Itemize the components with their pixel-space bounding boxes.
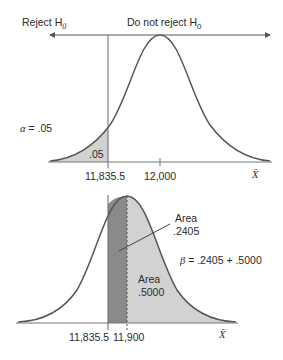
reject-label: Reject H0	[22, 16, 66, 31]
alpha-label: α = .05	[20, 122, 52, 134]
true-mean-label: 11,900	[113, 331, 144, 343]
area2-value: .5000	[138, 286, 164, 298]
do-not-reject-label: Do not reject H0	[127, 16, 202, 31]
x-bar-label-bottom: X̄	[218, 329, 226, 340]
beta-label: β = .2405 + .5000	[179, 254, 262, 266]
area1-value: .2405	[173, 225, 199, 237]
critical-value-label: 11,835.5	[85, 170, 125, 182]
mean-label: 12,000	[144, 170, 176, 182]
beta-dark-shade	[108, 196, 127, 323]
h0-curve	[50, 35, 270, 161]
tail-area-label: .05	[89, 148, 104, 160]
bottom-chart: Area .2405 β = .2405 + .5000 Area .5000 …	[16, 195, 262, 343]
top-chart: Reject H0 Do not reject H0 α = .05 .05 1…	[20, 16, 272, 182]
area1-title: Area	[175, 212, 197, 224]
critical-value-label-bottom: 11,835.5	[69, 331, 109, 343]
area2-title: Area	[138, 273, 160, 285]
x-bar-label: X̄	[251, 169, 259, 180]
hypothesis-test-figure: Reject H0 Do not reject H0 α = .05 .05 1…	[0, 0, 283, 360]
